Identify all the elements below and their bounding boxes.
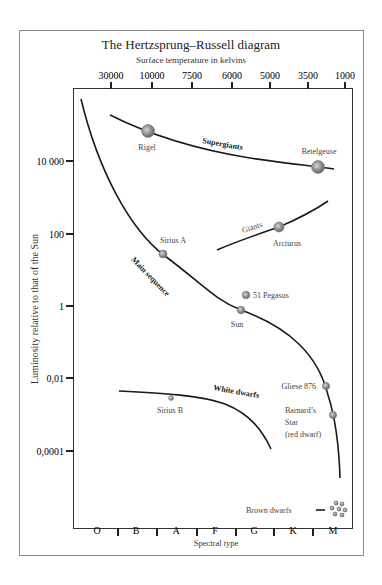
label-sirius-b: Sirius B — [157, 406, 183, 415]
spectral-class-label: O — [93, 525, 100, 536]
star-sirius-b — [169, 396, 174, 401]
star-betelgeuse — [312, 161, 325, 174]
bottom-axis-label: Spectral type — [194, 538, 239, 548]
left-axis-label: Luminosity relative to that of the Sun — [29, 234, 40, 384]
giants-label: Giants — [241, 220, 264, 235]
spectral-class-label: K — [289, 525, 297, 536]
spectral-class-label: M — [329, 525, 338, 536]
label-arcturus: Arcturus — [273, 239, 301, 248]
left-axis: 10 000 100 1 0,01 0,0001 Luminosity rela… — [29, 156, 74, 457]
label-51-pegasus: 51 Pegasus — [253, 291, 289, 300]
label-sun: Sun — [231, 320, 243, 329]
top-tick-label: 10000 — [140, 70, 165, 81]
top-tick-label: 7500 — [182, 70, 202, 81]
sequence-curves — [81, 99, 340, 510]
spectral-class-label: F — [212, 525, 218, 536]
stars — [142, 125, 337, 419]
top-tick-label: 30000 — [99, 70, 124, 81]
star-barnards-star — [329, 411, 336, 418]
brown-dwarfs-label: Brown dwarfs — [246, 506, 292, 515]
top-tick-label: 5000 — [260, 70, 280, 81]
top-tick-label: 1000 — [335, 70, 355, 81]
top-tick-label: 6000 — [222, 70, 242, 81]
spectral-class-label: A — [172, 525, 180, 536]
star-51-pegasus — [242, 291, 250, 299]
label-gliese-876: Gliese 876 — [282, 382, 316, 391]
spectral-class-label: B — [133, 525, 140, 536]
left-tick-label: 100 — [49, 229, 64, 240]
star-arcturus — [274, 222, 284, 232]
star-rigel — [142, 125, 155, 138]
label-rigel: Rigel — [138, 143, 156, 152]
outer-frame — [20, 31, 364, 556]
brown-dwarfs-cluster — [330, 501, 347, 519]
left-tick-label: 1 — [59, 301, 64, 312]
star-gliese-876 — [322, 382, 329, 389]
star-sun — [237, 306, 245, 314]
left-tick-label: 10 000 — [37, 156, 65, 167]
label-betelgeuse: Betelgeuse — [301, 147, 337, 156]
left-tick-label: 0,01 — [47, 373, 65, 384]
main-sequence-label: Main sequence — [130, 255, 172, 298]
white-dwarfs-label: White dwarfs — [213, 383, 260, 400]
top-tick-label: 3500 — [298, 70, 318, 81]
star-sirius-a — [159, 250, 167, 258]
hr-diagram: The Hertzsprung–Russell diagram Surface … — [0, 0, 382, 585]
white-dwarfs-curve — [119, 391, 271, 449]
label-barnards-star-line3: (red dwarf) — [285, 430, 322, 439]
label-barnards-star-line2: Star — [285, 418, 298, 427]
top-axis-label: Surface temperature in kelvins — [136, 55, 247, 65]
left-tick-label: 0,0001 — [37, 446, 65, 457]
diagram-title: The Hertzsprung–Russell diagram — [102, 37, 280, 52]
label-barnards-star: Barnard’s — [285, 406, 316, 415]
spectral-class-label: G — [250, 525, 257, 536]
top-axis: 30000 10000 7500 6000 5000 3500 1000 — [99, 70, 356, 89]
label-sirius-a: Sirius A — [160, 236, 186, 245]
